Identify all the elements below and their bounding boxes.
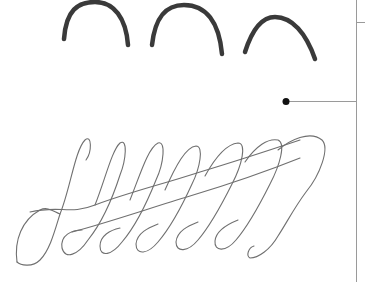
drawing: [0, 0, 365, 282]
arch-2: [152, 5, 222, 54]
cursive-loops: [16, 136, 324, 265]
handwriting-canvas: [0, 0, 365, 282]
pointer-dot: [283, 98, 290, 105]
arch-1: [64, 2, 128, 45]
arch-3: [245, 17, 315, 59]
arches: [64, 2, 315, 59]
annotation: [283, 0, 365, 282]
